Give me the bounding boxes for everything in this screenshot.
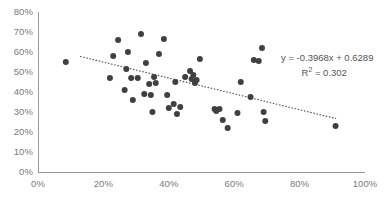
y-axis-tick-label: 20% [0,127,33,137]
regression-equation-text: y = -0.3968x + 0.6289 [281,52,373,65]
trendline-equation-annotation: y = -0.3968x + 0.6289 R2 = 0.302 [281,52,373,80]
scatter-point [248,94,254,100]
scatter-point [220,117,226,123]
y-axis-tick-label: 0% [0,167,33,177]
scatter-point [149,109,155,115]
scatter-point [135,75,141,81]
scatter-point [123,66,129,72]
scatter-point [156,51,162,57]
scatter-point [107,75,113,81]
scatter-point [216,106,222,112]
scatter-point [261,109,267,115]
scatter-point [225,125,231,131]
y-axis-tick-label: 10% [0,147,33,157]
scatter-point [172,79,178,85]
scatter-point [259,45,265,51]
scatter-chart: 0%10%20%30%40%50%60%70%80% 0%20%40%60%80… [0,0,390,205]
y-axis-tick-label: 60% [0,47,33,57]
r-squared-text: R2 = 0.302 [281,65,373,80]
scatter-point [161,36,167,42]
scatter-point [128,75,134,81]
scatter-point [141,91,147,97]
scatter-point [143,60,149,66]
scatter-point [166,105,172,111]
y-axis-tick-label: 50% [0,67,33,77]
x-axis-tick-label: 60% [214,179,254,189]
scatter-point [164,92,170,98]
x-axis-tick-label: 20% [83,179,123,189]
y-axis-tick-label: 30% [0,107,33,117]
scatter-point [197,56,203,62]
r-squared-value: = 0.302 [315,67,347,78]
scatter-point [115,37,121,43]
scatter-point [171,101,177,107]
scatter-point [262,118,268,124]
scatter-point [110,53,116,59]
scatter-point [125,49,131,55]
scatter-point [122,87,128,93]
scatter-point [182,74,188,80]
y-axis-tick-label: 40% [0,87,33,97]
data-points [63,31,339,131]
scatter-point [130,97,136,103]
x-axis-tick-label: 40% [149,179,189,189]
y-axis-tick-label: 80% [0,7,33,17]
x-axis-tick-label: 100% [345,179,385,189]
scatter-point [148,92,154,98]
x-axis-tick-label: 0% [18,179,58,189]
y-axis-tick-label: 70% [0,27,33,37]
scatter-point [234,110,240,116]
x-axis-tick-label: 80% [280,179,320,189]
scatter-point [177,104,183,110]
scatter-point [238,79,244,85]
scatter-point [333,123,339,129]
scatter-point [190,72,196,78]
scatter-point [146,81,152,87]
scatter-point [174,111,180,117]
scatter-point [194,77,200,83]
scatter-point [138,31,144,37]
scatter-point [256,58,262,64]
scatter-point [63,59,69,65]
axis-lines [38,12,365,172]
scatter-point [151,74,157,80]
plot-canvas [0,0,390,205]
scatter-point [153,80,159,86]
